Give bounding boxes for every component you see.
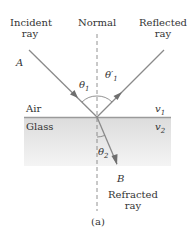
- v1-label: v1: [155, 103, 165, 119]
- theta1-prime-label: θ′1: [105, 69, 118, 85]
- glass-label: Glass: [26, 121, 53, 132]
- reflected-label-line1: Reflected: [138, 17, 188, 28]
- point-b-label: B: [117, 173, 124, 184]
- reflected-label-line2: ray: [138, 28, 188, 39]
- reflected-ray-label: Reflected ray: [138, 17, 188, 39]
- theta1-subscript: 1: [85, 85, 89, 93]
- refracted-label-line1: Refracted: [106, 189, 160, 200]
- incident-label-line1: Incident: [10, 17, 50, 28]
- theta2-label: θ2: [98, 146, 109, 162]
- v2-label: v2: [155, 121, 165, 137]
- refracted-ray-label: Refracted ray: [106, 189, 160, 211]
- refracted-label-line2: ray: [106, 200, 160, 211]
- theta1-arc: [82, 96, 97, 102]
- incident-ray-label: Incident ray: [10, 17, 50, 39]
- figure-caption: (a): [88, 216, 108, 227]
- theta1p-subscript: 1: [113, 75, 117, 83]
- v1-subscript: 1: [161, 109, 165, 117]
- normal-label: Normal: [75, 17, 119, 28]
- theta2-subscript: 2: [104, 152, 108, 160]
- incident-label-line2: ray: [10, 28, 50, 39]
- air-label: Air: [26, 103, 41, 114]
- point-a-label: A: [16, 57, 23, 68]
- theta1-label: θ1: [79, 79, 90, 95]
- v2-subscript: 2: [161, 127, 165, 135]
- theta1-prime-arc: [97, 96, 112, 102]
